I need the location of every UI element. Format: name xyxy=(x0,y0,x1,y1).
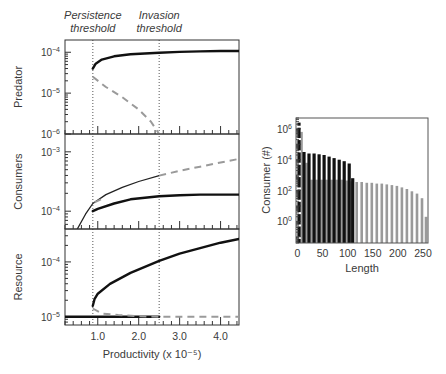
series-unstable xyxy=(93,77,159,134)
x-axis-label-length: Length xyxy=(345,262,379,274)
y-tick-label: 10−3 xyxy=(41,146,60,158)
bar-gray xyxy=(376,184,379,243)
panel-consumers: 10−310−4Consumers xyxy=(12,134,239,229)
length-distribution-chart: 106104102100050100150200250 Length Consu… xyxy=(260,118,432,274)
bar-black xyxy=(302,152,305,243)
bar-gray xyxy=(360,182,363,243)
y-tick-label: 10−6 xyxy=(41,128,60,140)
x-tick-label: 0 xyxy=(295,247,301,259)
x-tick-label: 100 xyxy=(339,247,357,259)
y-tick-label: 102 xyxy=(277,185,292,197)
panel-frame xyxy=(65,229,239,325)
x-tick-label: 1.0 xyxy=(90,330,105,342)
bar-gap xyxy=(297,126,301,128)
bar-black xyxy=(348,164,351,244)
figure: PersistencethresholdInvasionthreshold 10… xyxy=(0,0,446,374)
productivity-x-axis: 1.02.03.04.0 xyxy=(90,330,228,342)
bar-gray xyxy=(406,189,409,243)
threshold-label: threshold xyxy=(70,22,116,34)
bar-black xyxy=(333,158,336,243)
x-tick-label: 250 xyxy=(414,247,432,259)
y-tick-label: 104 xyxy=(277,154,292,166)
threshold-label: Invasion xyxy=(139,9,180,21)
panel-frame xyxy=(65,134,239,229)
threshold-label: threshold xyxy=(137,22,183,34)
series-stable xyxy=(93,195,239,212)
bar-gap xyxy=(297,187,301,189)
threshold-label: Persistence xyxy=(64,9,121,21)
bars xyxy=(297,123,427,243)
bar-gray xyxy=(396,186,399,243)
x-axis-label: Productivity (x 10⁻⁵) xyxy=(103,348,202,360)
bar-gray xyxy=(386,184,389,243)
bar-black xyxy=(343,161,346,243)
y-axis-label: Predator xyxy=(12,66,24,109)
y-tick-label: 106 xyxy=(277,123,292,135)
bar-gray xyxy=(416,194,419,243)
bar-black xyxy=(328,157,331,243)
panels: 10−410−510−6Predator10−310−4Consumers10−… xyxy=(12,40,239,325)
bar-black xyxy=(338,160,341,243)
series-total-after-invasion xyxy=(159,159,239,176)
y-axis-label: Resource xyxy=(12,253,24,300)
series-stable-upper xyxy=(93,239,239,306)
bar-gray xyxy=(391,185,394,243)
y-tick-label: 10−5 xyxy=(41,311,60,323)
bar-black xyxy=(323,155,326,243)
series-stable xyxy=(93,51,239,69)
bar-black xyxy=(307,154,310,244)
bar-gray xyxy=(425,217,428,243)
y-axis-label: Consumers xyxy=(12,153,24,210)
y-tick-label: 10−4 xyxy=(41,205,60,217)
bar-gray xyxy=(411,191,414,243)
y-tick-label: 100 xyxy=(277,215,292,227)
bar-gray xyxy=(371,183,374,243)
series-unstable-lower xyxy=(93,309,239,317)
x-tick-label: 150 xyxy=(364,247,382,259)
x-tick-label: 2.0 xyxy=(131,330,146,342)
panel-resource: 10−410−5Resource xyxy=(12,229,239,325)
bar-gray xyxy=(401,187,404,243)
bar-gray xyxy=(381,184,384,243)
x-tick-label: 50 xyxy=(317,247,329,259)
bar-gray xyxy=(366,183,369,243)
panel-predator: 10−410−510−6Predator xyxy=(12,40,239,140)
y-tick-label: 10−4 xyxy=(41,46,60,58)
bar-black xyxy=(313,154,316,244)
y-tick-label: 10−5 xyxy=(41,87,60,99)
x-tick-label: 4.0 xyxy=(213,330,228,342)
bar-gray xyxy=(421,198,424,243)
bifurcation-chart: PersistencethresholdInvasionthreshold 10… xyxy=(12,9,239,360)
x-tick-label: 200 xyxy=(389,247,407,259)
bar-gray xyxy=(355,182,358,243)
y-axis-label-consumer: Consumer (#) xyxy=(260,146,272,213)
bar-black xyxy=(351,178,354,243)
bar-black xyxy=(318,154,321,243)
x-tick-label: 3.0 xyxy=(172,330,187,342)
y-tick-label: 10−4 xyxy=(41,256,60,268)
